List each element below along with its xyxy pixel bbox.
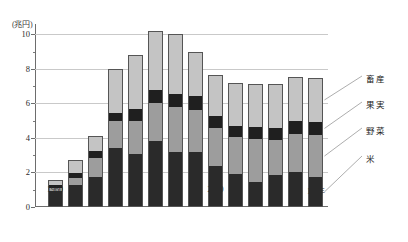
plot-area: 0246810 [35, 24, 328, 207]
leader-line-live [324, 76, 362, 100]
y-tick-label: 4 [26, 133, 30, 143]
bar-segment-veg [248, 139, 263, 182]
bar-segment-live [308, 78, 323, 121]
bar-segment-fruit [128, 109, 143, 120]
y-tick-label: 6 [26, 98, 30, 108]
bar-segment-rice [128, 154, 143, 207]
x-tick-label: 12 [292, 185, 300, 194]
bar-85 [148, 31, 163, 207]
x-tick-label: 80 [131, 185, 139, 194]
bar-segment-veg [288, 134, 303, 173]
y-tick [31, 34, 35, 35]
bar-segment-fruit [88, 151, 103, 158]
x-tick-label: 75 [111, 185, 119, 194]
bar-segment-live [268, 84, 283, 128]
legend-item-live: 畜産 [366, 72, 386, 84]
bar-segment-live [208, 75, 223, 116]
bar-segment-fruit [248, 127, 263, 139]
legend-item-veg: 野菜 [366, 124, 386, 136]
x-tick-label: 05 [232, 185, 240, 194]
y-tick-label: 8 [26, 64, 30, 74]
bar-segment-fruit [288, 121, 303, 134]
bar-segment-live [148, 31, 163, 91]
bar-segment-fruit [208, 116, 223, 127]
x-tick-label: 11 [272, 185, 280, 194]
leader-line-veg [324, 128, 362, 156]
bar-segment-veg [188, 110, 203, 151]
bar-segment-live [108, 69, 123, 113]
y-tick-minor [33, 190, 35, 191]
x-tick-label: 95 [192, 185, 200, 194]
bar-segment-fruit [228, 126, 243, 137]
x-tick-label: 10 [252, 185, 260, 194]
chart-container: (兆円) 0246810 196065707580859095200005101… [0, 0, 408, 242]
bar-segment-live [168, 34, 183, 94]
x-axis-year-suffix: 年 [317, 187, 325, 196]
bar-segment-fruit [188, 96, 203, 111]
bar-segment-fruit [308, 122, 323, 136]
bar-segment-live [88, 136, 103, 151]
x-tick-label: 90 [171, 185, 179, 194]
x-tick-label: 1960 [47, 185, 63, 194]
bar-segment-veg [308, 135, 323, 176]
bar-70 [88, 136, 103, 207]
bar-segment-veg [148, 103, 163, 142]
y-tick [31, 207, 35, 208]
bar-segment-rice [108, 148, 123, 207]
bar-segment-rice [148, 141, 163, 207]
bar-segment-fruit [168, 94, 183, 107]
y-tick [31, 172, 35, 173]
y-tick-label: 2 [26, 167, 30, 177]
bar-segment-veg [88, 158, 103, 177]
bar-segment-live [288, 77, 303, 121]
leader-line-rice [324, 156, 362, 192]
bar-segment-fruit [268, 128, 283, 140]
y-axis-unit-label: (兆円) [12, 18, 33, 29]
y-tick [31, 138, 35, 139]
x-tick-label: 2000 [208, 185, 224, 194]
y-tick-label: 10 [22, 29, 31, 39]
bar-segment-live [228, 83, 243, 126]
bar-segment-fruit [148, 90, 163, 102]
y-tick-label: 0 [26, 202, 30, 212]
x-tick-label: 65 [71, 185, 79, 194]
bar-segment-veg [228, 137, 243, 174]
bar-segment-veg [168, 107, 183, 152]
y-tick [31, 103, 35, 104]
x-tick-label: 13年 [307, 185, 325, 196]
bar-segment-fruit [108, 113, 123, 121]
bar-segment-live [188, 52, 203, 96]
legend-item-rice: 米 [366, 152, 376, 164]
y-axis-line [35, 24, 36, 207]
legend-item-fruit: 果実 [366, 98, 386, 110]
y-tick-minor [33, 121, 35, 122]
bar-segment-veg [128, 121, 143, 155]
bar-95 [188, 52, 203, 207]
bar-segment-live [128, 55, 143, 109]
y-tick [31, 69, 35, 70]
bar-65 [68, 160, 83, 207]
bar-segment-live [248, 84, 263, 127]
y-tick-minor [33, 155, 35, 156]
bar-90 [168, 34, 183, 207]
x-tick-label: 85 [151, 185, 159, 194]
y-tick-minor [33, 86, 35, 87]
bar-segment-veg [208, 128, 223, 167]
bar-segment-rice [188, 152, 203, 207]
x-tick-label: 70 [91, 185, 99, 194]
bar-segment-veg [268, 140, 283, 175]
leader-line-fruit [324, 102, 362, 128]
bar-segment-veg [108, 121, 123, 149]
y-tick-minor [33, 52, 35, 53]
bar-segment-rice [168, 152, 183, 207]
bar-segment-live [68, 160, 83, 173]
